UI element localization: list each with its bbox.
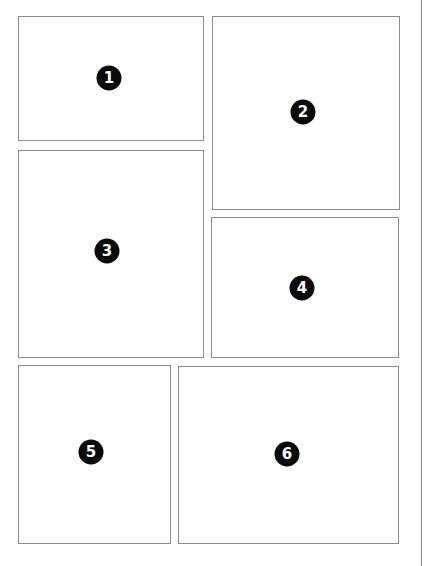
panel-number-badge: 3 [95,239,120,264]
panel-number-badge: 4 [290,276,315,301]
panel-number-badge: 6 [275,442,300,467]
panel-number-badge: 5 [79,440,104,465]
panel-number-badge: 2 [291,100,316,125]
panel-number-badge: 1 [97,66,122,91]
page-edge-line [421,0,422,566]
